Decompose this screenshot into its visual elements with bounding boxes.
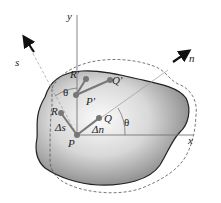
x-axis-label: x [187,134,193,146]
theta-right-label: θ [124,116,129,128]
label-R: R [50,105,58,117]
point-Q [96,115,102,121]
label-Q: Q [104,112,112,124]
y-axis-label: y [66,10,72,22]
n-arrow [173,53,186,62]
label-R-prime: R' [69,68,80,80]
deformation-diagram: x y n s θ θ P R Q P' R' Q' Δs Δn [0,0,221,203]
theta-left-label: θ [63,86,68,98]
label-P-prime: P' [85,95,96,107]
label-P: P [67,137,75,149]
n-axis-label: n [189,52,195,64]
label-delta-n: Δn [91,123,104,135]
label-Q-prime: Q' [112,74,123,86]
s-axis-label: s [15,56,19,68]
point-R-prime [83,76,89,82]
point-R [58,110,64,116]
point-P [74,132,80,138]
point-P-prime [73,92,79,98]
label-delta-s: Δs [54,121,66,133]
s-arrow [26,40,34,52]
